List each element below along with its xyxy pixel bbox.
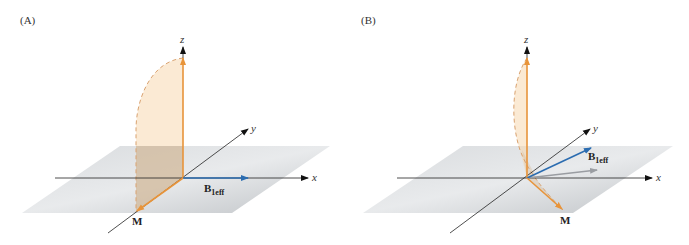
y-axis-label: y	[251, 122, 256, 134]
z-axis-label: z	[524, 33, 528, 45]
m-label: M	[560, 214, 570, 226]
panel-b	[363, 47, 673, 233]
b1eff-label: B1eff	[588, 150, 608, 165]
panel-a-label: (A)	[20, 14, 35, 26]
b1eff-label-sub: 1eff	[211, 188, 224, 197]
b1eff-label: B1eff	[204, 182, 224, 197]
m-label: M	[132, 215, 142, 227]
xy-plane	[363, 146, 673, 213]
panel-b-label: (B)	[361, 14, 376, 26]
b1eff-label-sub: 1eff	[595, 156, 608, 165]
z-axis-label: z	[180, 33, 184, 45]
y-axis-label: y	[593, 122, 598, 134]
x-axis-label: x	[312, 171, 317, 183]
figure-canvas	[0, 0, 689, 245]
panel-a	[22, 47, 330, 233]
x-axis-label: x	[656, 171, 661, 183]
